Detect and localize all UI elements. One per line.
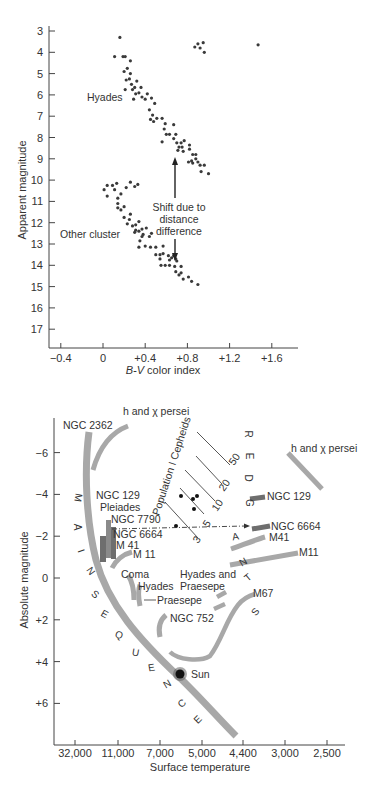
data-point	[137, 230, 140, 233]
data-point	[129, 59, 132, 62]
data-point	[106, 184, 109, 187]
data-point	[140, 235, 143, 238]
bottom-x-tick-label: 4,400	[229, 747, 257, 759]
data-point	[153, 102, 156, 105]
data-point	[137, 246, 140, 249]
data-point	[139, 86, 142, 89]
data-point	[124, 55, 127, 58]
data-point	[144, 98, 147, 101]
top-y-tick-label: 10	[31, 174, 43, 186]
data-point	[116, 202, 119, 205]
data-point	[191, 153, 194, 156]
top-y-tick-label: 17	[31, 323, 43, 335]
data-point	[111, 184, 114, 187]
main-sequence-letter: C	[175, 697, 188, 710]
bottom-x-tick-label: 3,000	[271, 747, 299, 759]
data-point	[140, 95, 143, 98]
data-point	[193, 45, 196, 48]
data-point	[135, 80, 138, 83]
data-point	[149, 118, 152, 121]
data-point	[172, 137, 175, 140]
red-giants-letter: E	[244, 453, 255, 460]
data-point	[196, 42, 199, 45]
data-point	[181, 146, 184, 149]
top-y-tick-label: 13	[31, 238, 43, 250]
label-hyades: Hyades	[138, 580, 174, 592]
label-m41-left: M 41	[116, 539, 140, 551]
data-point	[129, 72, 132, 75]
data-point	[200, 170, 203, 173]
cepheid-dots	[174, 494, 199, 528]
data-point	[176, 149, 179, 152]
data-point	[113, 55, 116, 58]
data-point	[140, 228, 143, 231]
data-point	[126, 67, 129, 70]
bottom-y-tick-label: −6	[35, 447, 48, 459]
shift-label-line2: distance	[159, 213, 198, 225]
top-x-tick-label: +1.6	[261, 352, 283, 364]
main-sequence-letter: U	[131, 647, 140, 659]
data-point	[194, 153, 197, 156]
top-x-axis-title: B-V color index	[126, 364, 201, 376]
data-point	[158, 257, 161, 260]
bottom-y-tick-label: +2	[35, 614, 48, 626]
main-sequence-letter: E	[147, 662, 156, 674]
main-sequence-letter: N	[161, 677, 173, 690]
bottom-x-tick-label: 11,000	[102, 747, 135, 759]
top-x-tick-label: 0	[100, 352, 106, 364]
data-point	[173, 265, 176, 268]
data-point	[175, 141, 178, 144]
data-point	[123, 216, 126, 219]
label-hyades: Hyades	[87, 91, 123, 103]
data-point	[133, 86, 136, 89]
data-point	[119, 208, 122, 211]
data-point	[131, 224, 134, 227]
bottom-y-tick-label: −4	[35, 488, 48, 500]
data-point	[165, 133, 168, 136]
bottom-axes: −6−4−20+2+4+632,00011,0007,0005,0004,400…	[35, 418, 345, 759]
red-giants-letter: A	[231, 531, 240, 543]
data-point	[150, 232, 153, 235]
top-y-tick-label: 4	[37, 46, 43, 58]
data-point	[174, 270, 177, 273]
top-x-tick-label: −0.4	[50, 352, 72, 364]
bottom-x-tick-label: 2,500	[313, 747, 341, 759]
data-point	[175, 259, 178, 262]
cepheid-period-lines	[165, 432, 230, 538]
data-point	[199, 164, 202, 167]
data-point	[134, 223, 137, 226]
data-point	[199, 46, 202, 49]
bottom-y-tick-label: +6	[35, 697, 48, 709]
period-3: 3	[190, 533, 203, 545]
data-point	[119, 192, 122, 195]
data-point	[146, 92, 149, 95]
main-sequence-letter: E	[99, 608, 111, 621]
top-chart: 34567891011121314151617−0.40+0.4+0.8+1.2…	[0, 0, 384, 390]
data-point	[154, 253, 157, 256]
data-point	[132, 98, 135, 101]
sun-icon	[173, 667, 187, 681]
top-x-tick-label: +1.2	[219, 352, 241, 364]
label-ngc129-right: NGC 129	[267, 490, 311, 502]
data-point	[168, 264, 171, 267]
data-point	[182, 150, 185, 153]
top-x-tick-label: +0.4	[134, 352, 156, 364]
data-point	[187, 275, 190, 278]
red-giants-letters: REDGANTS	[231, 430, 262, 617]
data-point	[129, 181, 132, 184]
top-y-tick-label: 8	[37, 132, 43, 144]
data-point	[106, 195, 109, 198]
data-point	[113, 188, 116, 191]
data-point	[128, 218, 131, 221]
main-sequence-letter: Q	[114, 628, 125, 641]
label-ngc6664-left: NGC 6664	[113, 528, 163, 540]
data-point	[191, 162, 194, 165]
label-m11-left: M 11	[133, 548, 156, 560]
data-point	[159, 264, 162, 267]
data-point	[182, 278, 185, 281]
main-sequence-band	[86, 426, 255, 736]
data-point	[126, 222, 129, 225]
data-point	[134, 92, 137, 95]
label-ngc2362: NGC 2362	[63, 419, 113, 431]
data-point	[155, 117, 158, 120]
